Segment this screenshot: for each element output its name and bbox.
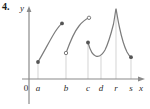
tick-label-b: b: [60, 83, 72, 93]
point-filled-a-left: [36, 60, 40, 64]
point-open-b-left: [64, 51, 67, 54]
tick-label-r: r: [110, 83, 122, 93]
tick-label-c: c: [82, 83, 94, 93]
gridlines: [38, 9, 131, 79]
x-axis-arrow: [138, 77, 145, 82]
y-axis-label: y: [20, 3, 24, 13]
origin-label: 0: [20, 83, 32, 93]
tick-label-a: a: [32, 83, 44, 93]
figure-container: 4.: [0, 0, 150, 109]
tick-label-d: d: [95, 83, 107, 93]
curve-branch-3: [88, 9, 131, 58]
y-axis-arrow: [27, 6, 32, 12]
point-open-branch2-right: [87, 16, 90, 19]
x-axis-label: x: [139, 83, 143, 93]
tick-label-s: s: [125, 83, 137, 93]
curve-branch-1: [38, 23, 62, 62]
point-filled-c-left: [86, 41, 90, 45]
curve-branch-2: [66, 18, 89, 53]
point-filled-s-right: [129, 55, 133, 59]
point-filled-branch1-right: [60, 22, 64, 26]
x-axis: [22, 77, 145, 82]
